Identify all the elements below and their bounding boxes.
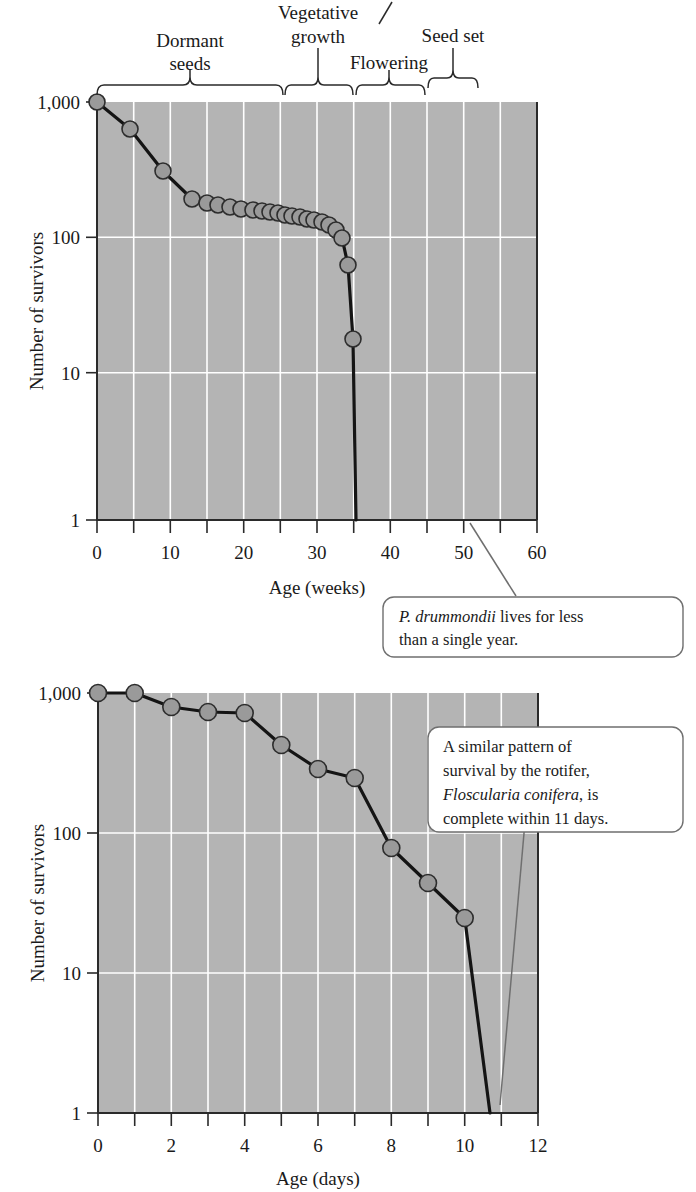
top-callout-leader	[470, 523, 516, 596]
bottom-x-tick-4: 4	[240, 1135, 250, 1156]
phase-label-dormant-line1: Dormant	[156, 30, 224, 51]
phase-label-vegetative-line2: growth	[291, 26, 345, 47]
top-y-axis-title: Number of survivors	[26, 232, 47, 390]
top-callout-line2: than a single year.	[399, 630, 518, 649]
seed-set-leader-stroke	[379, 2, 392, 24]
bracket-seed-set	[428, 70, 478, 88]
phase-label-vegetative-line1: Vegetative	[278, 2, 358, 23]
bottom-callout-species: Floscularia conifera	[442, 785, 579, 804]
bottom-x-axis-title: Age (days)	[276, 1168, 360, 1190]
top-x-tick-60: 60	[528, 542, 547, 563]
phase-label-dormant-line2: seeds	[169, 53, 210, 74]
top-x-tick-40: 40	[381, 542, 400, 563]
bottom-callout-line1: A similar pattern of	[443, 737, 572, 756]
top-y-tick-1000: 1,000	[37, 92, 80, 113]
top-x-tick-10: 10	[161, 542, 180, 563]
top-y-tickmarks	[86, 102, 97, 520]
phase-label-flowering: Flowering	[350, 52, 429, 73]
top-y-tick-100: 100	[52, 227, 81, 248]
bottom-y-tickmarks	[87, 693, 98, 1113]
top-x-axis-title: Age (weeks)	[269, 577, 366, 599]
top-x-tick-50: 50	[454, 542, 473, 563]
bracket-dormant-seeds	[97, 77, 283, 95]
phase-brackets	[97, 70, 478, 95]
top-y-tick-10: 10	[61, 363, 80, 384]
top-x-tick-30: 30	[308, 542, 327, 563]
top-callout-rest: lives for less	[496, 607, 584, 626]
bottom-x-tick-6: 6	[313, 1135, 323, 1156]
phase-label-seed-set: Seed set	[422, 25, 486, 46]
bottom-x-tick-8: 8	[387, 1135, 397, 1156]
bottom-y-tick-1000: 1,000	[38, 683, 81, 704]
top-x-tick-0: 0	[92, 542, 102, 563]
bottom-callout-line3: Floscularia conifera, is	[442, 785, 598, 804]
top-x-tick-20: 20	[234, 542, 253, 563]
top-y-tick-1: 1	[71, 510, 81, 531]
survivorship-figure: 1,000 100 10 1 0 10 20 30 40 50 60 Age (…	[0, 0, 696, 1192]
top-callout-line1: P. drummondii lives for less	[398, 607, 583, 626]
bottom-y-tick-10: 10	[62, 963, 81, 984]
bottom-callout-line4: complete within 11 days.	[443, 809, 608, 828]
bottom-y-tick-1: 1	[72, 1103, 82, 1124]
bottom-x-tick-12: 12	[529, 1135, 548, 1156]
bottom-callout-line2: survival by the rotifer,	[443, 761, 590, 780]
bottom-x-tick-0: 0	[93, 1135, 103, 1156]
bottom-y-axis-title: Number of survivors	[27, 824, 48, 982]
bracket-vegetative-growth	[285, 77, 353, 95]
bottom-x-tickmarks	[98, 1113, 538, 1126]
bracket-flowering	[356, 77, 425, 95]
top-chart: 1,000 100 10 1 0 10 20 30 40 50 60 Age (…	[26, 2, 547, 599]
top-x-tickmarks	[97, 520, 537, 533]
bottom-x-tick-10: 10	[455, 1135, 474, 1156]
figure-canvas: 1,000 100 10 1 0 10 20 30 40 50 60 Age (…	[0, 0, 696, 1192]
bottom-y-tick-100: 100	[53, 823, 82, 844]
bottom-x-tick-2: 2	[167, 1135, 177, 1156]
top-callout-species: P. drummondii	[398, 607, 496, 626]
